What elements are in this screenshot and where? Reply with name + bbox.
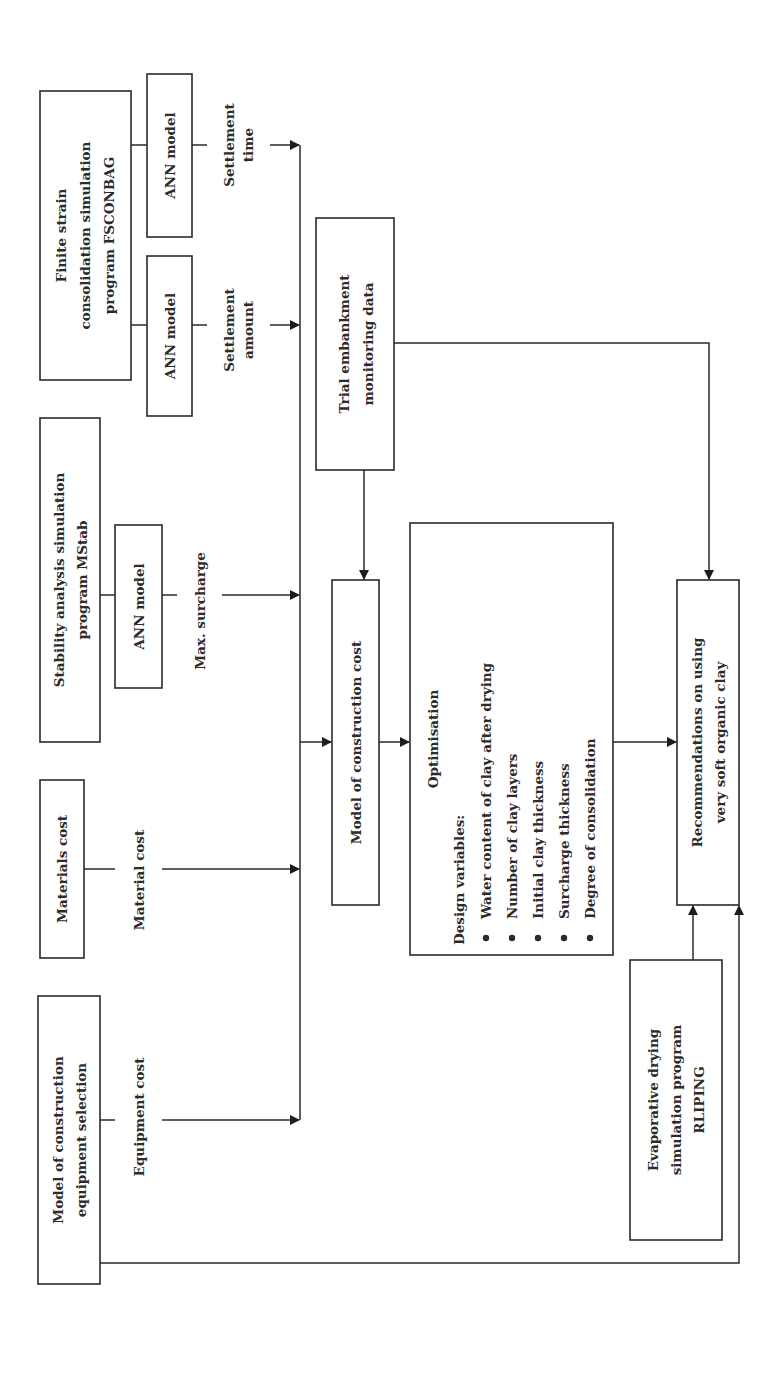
rliping-line-3: RLIPING [691, 1066, 707, 1133]
design-variable-item: Initial clay thickness [530, 760, 546, 919]
svg-text:Material cost: Material cost [131, 829, 147, 930]
trial-line-1: Trial embankment [336, 274, 352, 414]
node-optimisation: Optimisation Design variables: Water con… [410, 523, 613, 955]
node-materials-cost: Materials cost [40, 780, 84, 958]
node-recommendations: Recommendations on using very soft organ… [677, 580, 739, 905]
node-mstab: Stability analysis simulation program MS… [40, 418, 100, 742]
recommendations-line-2: very soft organic clay [712, 661, 728, 825]
design-variable-item: Degree of consolidation [582, 738, 598, 919]
ann-time-label: ANN model [162, 112, 178, 199]
equipment-line-2: equipment selection [73, 1063, 89, 1218]
edge-label-equipment-cost: Equipment cost [131, 1057, 147, 1177]
design-variable-item: Surcharge thickness [556, 763, 572, 919]
optimisation-title: Optimisation [425, 690, 441, 789]
svg-text:Settlement: Settlement [221, 103, 237, 187]
fsconbag-line-2: consolidation simulation [77, 141, 93, 329]
node-equipment-selection: Model of construction equipment selectio… [38, 996, 100, 1284]
bullet-icon [483, 935, 489, 941]
design-variable-item: Water content of clay after drying [478, 662, 494, 920]
node-rliping: Evaporative drying simulation program RL… [630, 960, 722, 1240]
node-ann-surcharge: ANN model [115, 525, 162, 688]
node-ann-amount: ANN model [147, 256, 192, 416]
svg-text:amount: amount [240, 300, 256, 359]
rliping-line-1: Evaporative drying [645, 1028, 661, 1171]
fsconbag-line-3: program FSCONBAG [101, 157, 117, 314]
materials-cost-label: Materials cost [54, 814, 70, 923]
design-variable-item: Number of clay layers [504, 753, 520, 919]
bullet-icon [535, 935, 541, 941]
optimisation-subtitle: Design variables: [451, 815, 467, 945]
svg-text:Max. surcharge: Max. surcharge [192, 552, 208, 670]
node-trial-embankment: Trial embankment monitoring data [316, 218, 394, 470]
edge-label-settlement-amount: Settlement amount [221, 288, 256, 372]
rliping-line-2: simulation program [668, 1025, 684, 1176]
bullet-icon [587, 935, 593, 941]
svg-text:Settlement: Settlement [221, 288, 237, 372]
mstab-line-2: program MStab [74, 521, 90, 640]
bullet-icon [509, 935, 515, 941]
edge-label-settlement-time: Settlement time [221, 103, 256, 187]
node-ann-time: ANN model [147, 74, 192, 237]
mstab-line-1: Stability analysis simulation [51, 473, 67, 688]
edge-label-material-cost: Material cost [131, 829, 147, 930]
bullet-icon [561, 935, 567, 941]
node-construction-cost: Model of construction cost [332, 580, 379, 905]
edge-label-max-surcharge: Max. surcharge [192, 552, 208, 670]
ann-amount-label: ANN model [162, 293, 178, 380]
recommendations-line-1: Recommendations on using [689, 637, 705, 848]
fsconbag-line-1: Finite strain [53, 188, 69, 282]
ann-surcharge-label: ANN model [131, 563, 147, 650]
construction-cost-label: Model of construction cost [348, 640, 364, 844]
equipment-line-1: Model of construction [50, 1056, 66, 1224]
node-fsconbag: Finite strain consolidation simulation p… [40, 91, 131, 380]
flowchart-canvas: Finite strain consolidation simulation p… [0, 0, 783, 1392]
svg-text:Equipment cost: Equipment cost [131, 1057, 147, 1177]
svg-text:time: time [240, 128, 256, 162]
trial-line-2: monitoring data [360, 282, 376, 405]
